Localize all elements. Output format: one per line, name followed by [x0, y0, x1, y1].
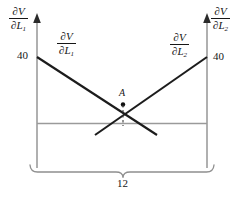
curve-label-right-numerator: ∂V — [170, 32, 189, 44]
curve-label-left-subscript: 1 — [71, 50, 75, 58]
left-axis-label-denominator: ∂L1 — [9, 18, 28, 32]
curve-label-left-numerator: ∂V — [57, 31, 76, 43]
left-axis-label-fraction: ∂V ∂L1 — [9, 6, 28, 31]
width-brace — [30, 165, 214, 177]
width-brace-label: 12 — [117, 178, 128, 189]
left-axis-label-numerator: ∂V — [9, 6, 28, 18]
curve-label-right-subscript: 2 — [184, 51, 188, 59]
right-axis-label: ∂V ∂L2 — [211, 6, 230, 32]
marginal-value-product-diagram: ∂V ∂L1 ∂V ∂L2 ∂V ∂L1 ∂V ∂L2 40 40 A 12 — [0, 0, 242, 200]
right-axis-intercept-value: 40 — [213, 51, 224, 62]
curve-label-right-denominator: ∂L2 — [170, 44, 189, 58]
curve-label-left-denominator: ∂L1 — [57, 43, 76, 57]
left-axis — [33, 13, 41, 168]
right-axis-arrow-icon — [203, 13, 211, 23]
right-axis-label-numerator: ∂V — [211, 6, 230, 18]
right-axis-label-fraction: ∂V ∂L2 — [211, 6, 230, 31]
left-axis-intercept-value: 40 — [17, 50, 28, 61]
left-axis-label: ∂V ∂L1 — [9, 6, 28, 32]
curve-label-marginal-value-l2: ∂V ∂L2 — [170, 32, 189, 58]
curve-label-left-fraction: ∂V ∂L1 — [57, 31, 76, 56]
left-axis-arrow-icon — [33, 13, 41, 23]
diagram-canvas — [0, 0, 242, 200]
curve-label-right-fraction: ∂V ∂L2 — [170, 32, 189, 57]
intersection-point-label: A — [119, 88, 125, 98]
width-brace-left-half — [30, 165, 123, 177]
right-axis-label-subscript: 2 — [225, 25, 229, 33]
curve-label-marginal-value-l1: ∂V ∂L1 — [57, 31, 76, 57]
width-brace-right-half — [123, 165, 214, 177]
right-axis — [203, 13, 211, 168]
right-axis-label-denominator: ∂L2 — [211, 18, 230, 32]
left-axis-label-subscript: 1 — [23, 25, 27, 33]
